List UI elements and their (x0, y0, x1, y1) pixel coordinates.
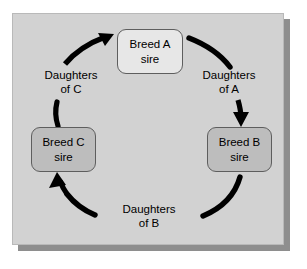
arrow-a-to-b-head (233, 112, 249, 127)
node-breed-b-label-line2: sire (230, 150, 249, 164)
edge-label-daughters-of-a: Daughters of A (191, 68, 267, 96)
node-breed-c-label-line2: sire (54, 150, 73, 164)
node-breed-b-label-line1: Breed B (219, 135, 261, 149)
node-breed-c-label-line1: Breed C (42, 135, 84, 149)
node-breed-c-sire: Breed C sire (31, 127, 96, 172)
arrow-b-to-c-right-segment (203, 177, 240, 216)
edge-label-daughters-of-a-line1: Daughters (191, 68, 267, 82)
edge-label-daughters-of-b: Daughters of B (111, 202, 187, 230)
arrow-b-to-c-left-segment (67, 194, 95, 215)
edge-label-daughters-of-b-line1: Daughters (111, 202, 187, 216)
edge-label-daughters-of-c-line1: Daughters (33, 68, 109, 82)
edge-label-daughters-of-c: Daughters of C (33, 68, 109, 96)
node-breed-b-sire: Breed B sire (207, 127, 272, 172)
arrow-a-to-b-upper-segment (189, 38, 230, 67)
node-breed-a-label-line2: sire (141, 52, 160, 66)
arrow-c-to-a-lower-segment (56, 102, 58, 126)
edge-label-daughters-of-b-line2: of B (111, 216, 187, 230)
edge-label-daughters-of-a-line2: of A (191, 82, 267, 96)
edge-label-daughters-of-c-line2: of C (33, 82, 109, 96)
rotational-crossbreeding-diagram: Breed A sire Breed B sire Breed C sire D… (12, 13, 284, 245)
arrow-c-to-a-upper-segment (65, 37, 105, 64)
node-breed-a-label-line1: Breed A (130, 37, 171, 51)
figure-root: Breed A sire Breed B sire Breed C sire D… (0, 0, 307, 269)
node-breed-a-sire: Breed A sire (117, 29, 183, 74)
